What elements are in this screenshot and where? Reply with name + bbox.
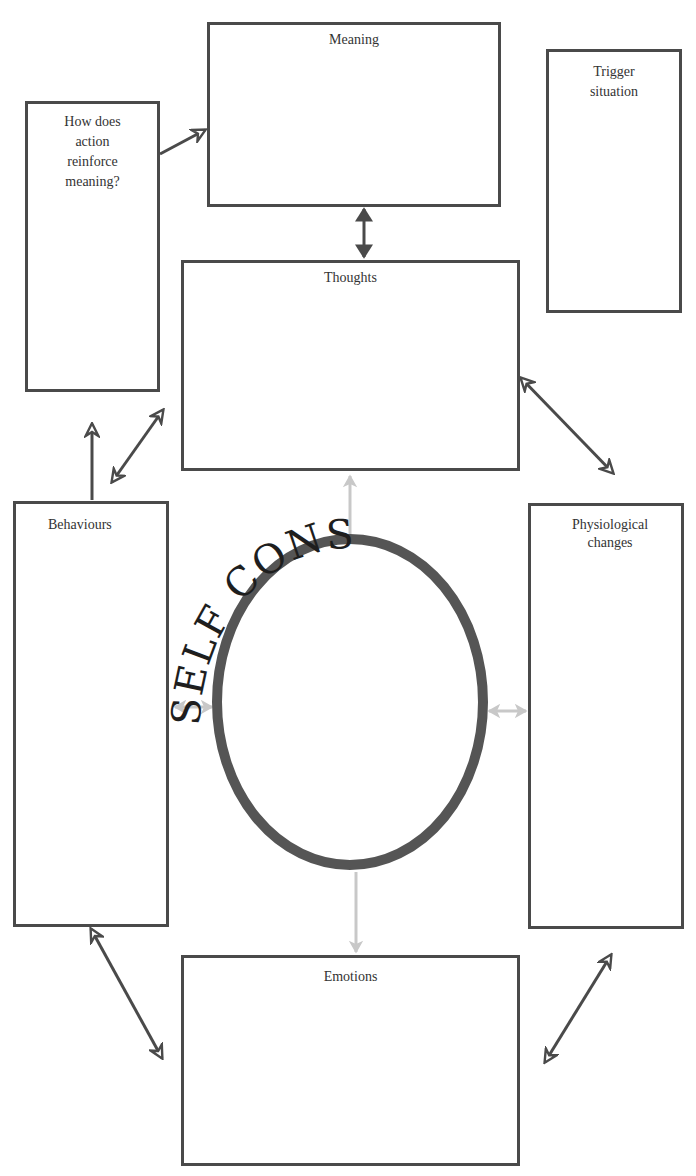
attention-ring <box>217 539 483 865</box>
behaviours-box: Behaviours <box>13 501 169 927</box>
emotions-label: Emotions <box>184 968 517 986</box>
trigger-situation-label: Trigger situation <box>549 62 679 102</box>
arrow-thoughts-physiological <box>521 378 613 473</box>
trigger-situation-box: Trigger situation <box>546 49 682 313</box>
how-does-action-label: How does action reinforce meaning? <box>28 112 157 192</box>
emotions-box: Emotions <box>181 955 520 1166</box>
behaviours-label: Behaviours <box>16 516 166 534</box>
meaning-box: Meaning <box>207 22 501 207</box>
arrow-how-to-meaning <box>160 130 205 154</box>
thoughts-box: Thoughts <box>181 260 520 471</box>
physiological-changes-label: Physiological changes <box>531 516 681 552</box>
arrow-behaviours-thoughts <box>112 410 163 482</box>
thoughts-label: Thoughts <box>184 269 517 287</box>
physiological-changes-box: Physiological changes <box>528 503 684 929</box>
arrow-physiological-emotions <box>545 955 611 1062</box>
meaning-label: Meaning <box>210 31 498 49</box>
arrow-behaviours-emotions <box>91 929 162 1058</box>
how-does-action-box: How does action reinforce meaning? <box>25 101 160 392</box>
